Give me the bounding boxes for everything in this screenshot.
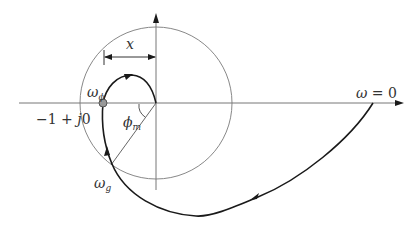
critical-point-label: −1 + j0: [36, 111, 91, 127]
gain-crossover-label: ωg: [94, 175, 111, 193]
phase-margin-line: [111, 103, 156, 165]
omega-zero-label: ω = 0: [356, 85, 397, 101]
nyquist-diagram: x ωϕ −1 + j0 ϕm ωg ω = 0: [0, 0, 420, 228]
imaginary-axis-arrow-icon: [153, 13, 159, 23]
curve-arrow-left-icon: [104, 146, 110, 156]
curve-arrow-top-icon: [124, 74, 133, 80]
distance-label: x: [126, 36, 134, 52]
nyquist-curve: [102, 75, 373, 216]
phase-margin-arc: [139, 104, 145, 117]
curve-arrow-lower-icon: [250, 193, 259, 200]
phase-crossover-label: ωϕ: [87, 84, 105, 102]
phase-margin-label: ϕm: [123, 114, 141, 132]
